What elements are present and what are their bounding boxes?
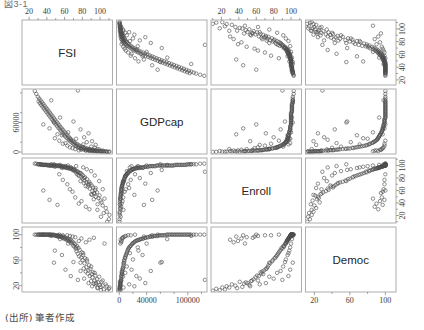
tick-label: 0 xyxy=(12,150,21,154)
tick-label: 20 xyxy=(217,7,225,16)
y-axis-enroll: 20406080100 xyxy=(396,159,407,222)
tick-label: 100 xyxy=(379,296,391,305)
tick-label: 60 xyxy=(398,50,407,58)
scatter-panel-democ-vs-gdpcap xyxy=(306,89,397,154)
x-axis-democ: 2060100 xyxy=(310,292,391,305)
y-axis-fsi: 20406080100 xyxy=(396,23,407,84)
diagonal-panel-democ: Democ xyxy=(306,227,397,292)
scatter-panel-fsi-vs-democ xyxy=(22,227,113,292)
tick-label: 20 xyxy=(25,7,33,16)
tick-label: 20 xyxy=(310,296,318,305)
tick-label: 40 xyxy=(398,199,407,207)
tick-label: 80 xyxy=(398,38,407,46)
tick-label: 60000 xyxy=(12,112,21,132)
scatter-panel-gdpcap-vs-democ xyxy=(117,227,208,292)
diagonal-panel-fsi: FSI xyxy=(22,20,113,85)
tick-label: 0 xyxy=(117,296,121,305)
tick-label: 40 xyxy=(398,63,407,71)
variable-label-enroll: Enroll xyxy=(242,185,271,197)
tick-label: 60 xyxy=(61,7,69,16)
tick-label: 100 xyxy=(398,23,407,35)
tick-label: 60 xyxy=(398,187,407,195)
tick-label: 20 xyxy=(398,212,407,220)
source-caption: (出所) 筆者作成 xyxy=(5,310,75,324)
variable-label-fsi: FSI xyxy=(58,47,76,59)
tick-label: 60 xyxy=(12,256,21,264)
x-axis-gdpcap: 040000100000 xyxy=(117,292,201,305)
x-axis-enroll: 20406080100 xyxy=(213,7,300,20)
diagonal-panel-gdpcap: GDPcap xyxy=(117,89,208,154)
tick-label: 100 xyxy=(12,229,21,241)
tick-label: 40 xyxy=(43,7,51,16)
x-axis-fsi: 20406080100 xyxy=(25,7,109,20)
y-axis-democ: 2060100 xyxy=(12,229,22,290)
tick-label: 40000 xyxy=(137,296,157,305)
scatterplot-matrix: FSIGDPcapEnrollDemoc20406080100040000100… xyxy=(0,0,424,330)
tick-label: 100 xyxy=(94,7,106,16)
scatter-panel-enroll-vs-democ xyxy=(211,227,302,292)
tick-label: 100 xyxy=(398,160,407,172)
scatter-panel-fsi-vs-enroll xyxy=(22,158,113,224)
scatter-panel-enroll-vs-gdpcap xyxy=(211,89,302,154)
scatter-panel-gdpcap-vs-enroll xyxy=(117,158,208,224)
variable-label-democ: Democ xyxy=(333,254,370,266)
tick-label: 20 xyxy=(12,282,21,290)
tick-label: 20 xyxy=(398,76,407,84)
variable-label-gdpcap: GDPcap xyxy=(140,116,183,128)
tick-label: 60 xyxy=(252,7,260,16)
tick-label: 40 xyxy=(235,7,243,16)
tick-label: 60 xyxy=(346,296,354,305)
tick-label: 80 xyxy=(78,7,86,16)
scatter-panel-gdpcap-vs-fsi xyxy=(117,20,208,85)
scatter-panel-democ-vs-enroll xyxy=(306,158,397,224)
scatter-panel-enroll-vs-fsi xyxy=(211,20,302,85)
scatter-panel-democ-vs-fsi xyxy=(306,20,397,85)
y-axis-gdpcap: 060000 xyxy=(12,93,22,154)
diagonal-panel-enroll: Enroll xyxy=(211,158,302,223)
tick-label: 80 xyxy=(270,7,278,16)
tick-label: 100000 xyxy=(176,296,200,305)
tick-label: 80 xyxy=(398,174,407,182)
scatter-panel-fsi-vs-gdpcap xyxy=(22,89,113,154)
tick-label: 100 xyxy=(285,7,297,16)
